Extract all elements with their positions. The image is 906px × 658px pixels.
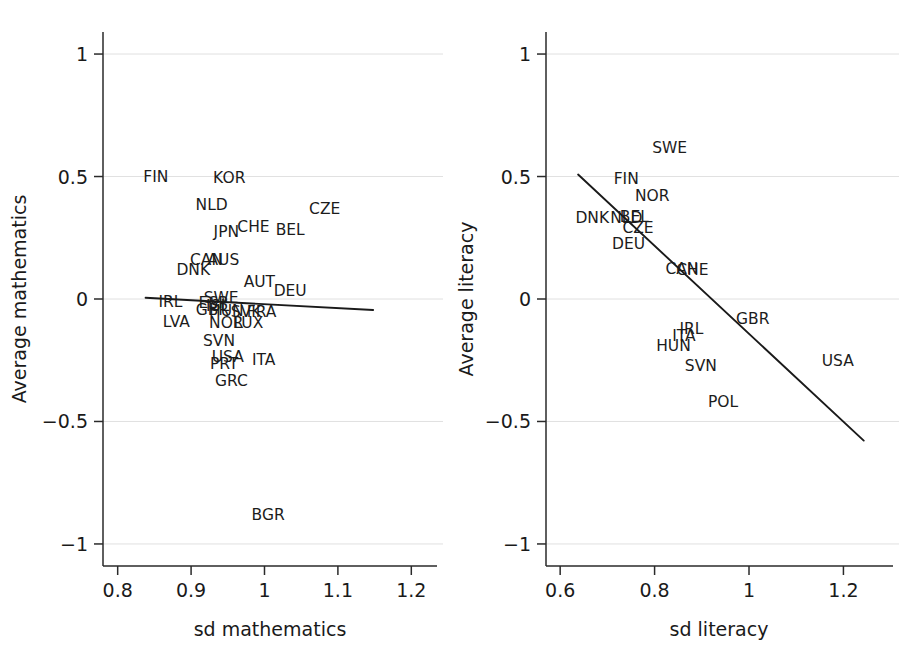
y-tick-label: −1 — [503, 533, 531, 555]
point-label-kor: KOR — [213, 169, 246, 187]
point-label-che: CHE — [237, 218, 269, 236]
panel-mathematics: 10.50−0.5−1 0.80.911.11.2 FINKORNLDCZEJP… — [0, 0, 453, 658]
point-label-deu: DEU — [274, 282, 307, 300]
x-tick-label: 0.8 — [103, 579, 133, 601]
y-tick-labels-right: 10.50−0.5−1 — [485, 43, 531, 555]
point-label-deu: DEU — [612, 235, 645, 253]
x-tick-label: 1 — [258, 579, 270, 601]
point-label-fin: FIN — [614, 170, 639, 188]
x-axis-title-left: sd mathematics — [194, 618, 347, 640]
point-label-pol: POL — [708, 393, 739, 411]
y-tick-label: 0.5 — [501, 166, 531, 188]
point-label-cze: CZE — [309, 200, 340, 218]
panel-literacy: 10.50−0.5−1 0.60.811.2 SWEFINNORDNKNLDBE… — [453, 0, 906, 658]
y-ticks-left — [94, 54, 103, 544]
x-tick-label: 1.1 — [323, 579, 353, 601]
y-tick-label: 1 — [519, 43, 531, 65]
x-tick-labels-right: 0.60.811.2 — [545, 579, 858, 601]
point-label-aus: AUS — [207, 251, 239, 269]
point-label-usa: USA — [822, 352, 854, 370]
x-tick-label: 0.8 — [639, 579, 669, 601]
point-labels-mathematics: FINKORNLDCZEJPNCHEBELCANAUSDNKAUTDEUIRLS… — [143, 168, 340, 524]
point-label-jpn: JPN — [213, 223, 240, 241]
x-ticks-right — [560, 566, 843, 575]
y-tick-label: 0 — [519, 288, 531, 310]
point-label-aut: AUT — [244, 273, 276, 291]
point-label-lux: LUX — [233, 314, 263, 332]
x-tick-labels-left: 0.80.911.11.2 — [103, 579, 427, 601]
y-tick-label: 0.5 — [58, 166, 88, 188]
scatter-svg-mathematics: 10.50−0.5−1 0.80.911.11.2 FINKORNLDCZEJP… — [0, 0, 453, 658]
point-label-svn: SVN — [203, 332, 235, 350]
point-labels-literacy: SWEFINNORDNKNLDBELCZEDEUCANCHEGBRIRLITAH… — [575, 139, 854, 412]
point-label-bgr: BGR — [252, 506, 285, 524]
point-label-nld: NLD — [196, 196, 228, 214]
y-tick-label: −1 — [60, 533, 88, 555]
point-label-che: CHE — [676, 261, 708, 279]
y-axis-title-left: Average mathematics — [8, 195, 30, 404]
point-label-dnk: DNK — [176, 261, 211, 279]
point-label-irl: IRL — [159, 293, 183, 311]
x-axis-title-right: sd literacy — [670, 618, 769, 640]
x-tick-label: 0.9 — [176, 579, 206, 601]
point-label-grc: GRC — [215, 372, 248, 390]
x-tick-label: 1.2 — [828, 579, 858, 601]
y-ticks-right — [537, 54, 546, 544]
y-tick-label: 0 — [76, 288, 88, 310]
x-tick-label: 0.6 — [545, 579, 575, 601]
point-label-lva: LVA — [163, 313, 191, 331]
x-tick-label: 1 — [743, 579, 755, 601]
y-tick-label: −0.5 — [485, 410, 531, 432]
x-ticks-left — [118, 566, 412, 575]
point-label-gbr: GBR — [736, 310, 770, 328]
gridlines-right — [546, 54, 899, 544]
y-axis-title-right: Average literacy — [455, 222, 477, 377]
scatter-svg-literacy: 10.50−0.5−1 0.60.811.2 SWEFINNORDNKNLDBE… — [453, 0, 906, 658]
point-label-dnk: DNK — [575, 209, 610, 227]
point-label-hun: HUN — [656, 337, 691, 355]
y-tick-labels-left: 10.50−0.5−1 — [42, 43, 88, 555]
y-tick-label: 1 — [76, 43, 88, 65]
point-label-bel: BEL — [276, 221, 305, 239]
point-label-swe: SWE — [652, 139, 687, 157]
point-label-fin: FIN — [143, 168, 168, 186]
two-panel-scatter-figure: 10.50−0.5−1 0.80.911.11.2 FINKORNLDCZEJP… — [0, 0, 906, 658]
point-label-svn: SVN — [685, 357, 717, 375]
x-tick-label: 1.2 — [396, 579, 426, 601]
y-tick-label: −0.5 — [42, 410, 88, 432]
point-label-ita: ITA — [252, 351, 276, 369]
point-label-nor: NOR — [635, 187, 670, 205]
point-label-prt: PRT — [210, 355, 239, 373]
